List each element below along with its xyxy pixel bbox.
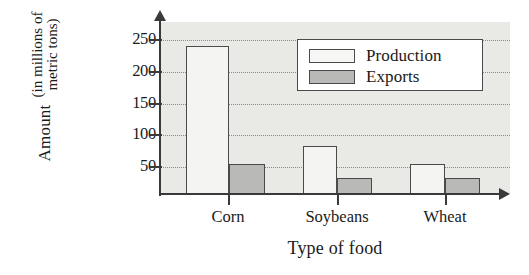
x-axis-arrow-icon: [499, 188, 510, 200]
x-tick-mark-wheat: [445, 195, 447, 205]
y-axis-tick-labels: 250 200 150 100 50: [110, 0, 156, 275]
y-tick-mark-150: [150, 103, 162, 105]
bar-soybeans-production: [303, 146, 337, 194]
y-tick-mark-100: [150, 134, 162, 136]
x-axis-label-soybeans: Soybeans: [287, 207, 387, 227]
bar-corn-production: [186, 46, 229, 194]
x-axis-line: [159, 193, 502, 195]
x-axis-title: Type of food: [160, 238, 510, 259]
legend-swatch-exports-icon: [309, 70, 355, 84]
y-axis-title: Amount (in millions of metric tons): [15, 0, 75, 185]
bar-chart-figure: Amount (in millions of metric tons) 250 …: [0, 0, 529, 275]
x-axis-label-wheat: Wheat: [395, 207, 495, 227]
legend-item-production: Production: [309, 45, 482, 66]
bar-soybeans-exports: [337, 178, 372, 194]
y-axis-title-sub: (in millions of metric tons): [30, 9, 61, 101]
y-axis-title-main: Amount: [35, 105, 55, 162]
y-axis-arrow-icon: [154, 10, 166, 21]
bar-wheat-production: [410, 164, 445, 194]
y-tick-mark-250: [150, 39, 162, 41]
y-tick-mark-50: [150, 166, 162, 168]
bar-corn-exports: [229, 164, 265, 194]
x-tick-mark-soybeans: [337, 195, 339, 205]
legend-label-exports: Exports: [366, 68, 420, 85]
plot-area: Production Exports: [160, 22, 510, 194]
x-tick-mark-corn: [228, 195, 230, 205]
chart-legend: Production Exports: [297, 39, 483, 91]
legend-label-production: Production: [366, 47, 442, 64]
bar-wheat-exports: [445, 178, 480, 194]
legend-swatch-production-icon: [309, 49, 355, 63]
y-axis-line: [159, 18, 161, 196]
x-axis-label-corn: Corn: [178, 207, 278, 227]
y-tick-mark-200: [150, 71, 162, 73]
legend-item-exports: Exports: [309, 66, 482, 87]
